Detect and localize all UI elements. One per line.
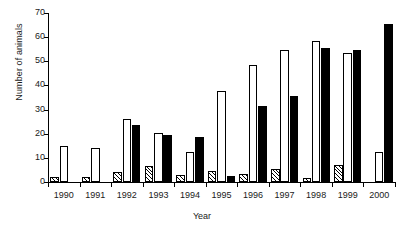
x-tick-mark bbox=[332, 182, 333, 187]
x-tick-mark bbox=[269, 182, 270, 187]
x-tick-mark bbox=[395, 182, 396, 187]
bar-white-1996 bbox=[249, 65, 258, 182]
x-tick-mark bbox=[206, 182, 207, 187]
x-tick-label: 1992 bbox=[117, 190, 137, 200]
bar-black-1993 bbox=[163, 135, 172, 182]
bar-black-1998 bbox=[321, 48, 330, 182]
x-tick-label: 1996 bbox=[243, 190, 263, 200]
bar-hatched-1990 bbox=[50, 177, 59, 182]
y-tick-label: 10 bbox=[35, 152, 45, 162]
bar-hatched-1995 bbox=[208, 171, 217, 182]
y-tick-label: 40 bbox=[35, 79, 45, 89]
plot-area: 010203040506070 199019911992199319941995… bbox=[48, 13, 395, 182]
x-tick-mark bbox=[237, 182, 238, 187]
y-axis-title: Number of animals bbox=[14, 0, 24, 127]
y-tick-label: 60 bbox=[35, 31, 45, 41]
x-axis-line bbox=[48, 182, 395, 183]
x-tick-label: 1993 bbox=[148, 190, 168, 200]
x-tick-label: 1991 bbox=[85, 190, 105, 200]
bar-hatched-1993 bbox=[145, 166, 154, 182]
bar-white-1992 bbox=[123, 119, 132, 182]
x-tick-label: 1995 bbox=[211, 190, 231, 200]
y-tick-label: 30 bbox=[35, 104, 45, 114]
bar-black-1996 bbox=[258, 106, 267, 182]
x-tick-label: 1999 bbox=[338, 190, 358, 200]
y-tick-label: 0 bbox=[40, 176, 45, 186]
x-tick-mark bbox=[80, 182, 81, 187]
y-tick-label: 20 bbox=[35, 128, 45, 138]
bar-white-1997 bbox=[280, 50, 289, 182]
bar-white-1990 bbox=[60, 146, 69, 182]
bar-hatched-1994 bbox=[176, 175, 185, 182]
y-tick: 60 bbox=[48, 37, 53, 38]
x-tick-label: 1990 bbox=[54, 190, 74, 200]
bar-black-1994 bbox=[195, 137, 204, 182]
x-tick-mark bbox=[300, 182, 301, 187]
y-tick: 20 bbox=[48, 134, 53, 135]
bar-hatched-1999 bbox=[334, 165, 343, 182]
y-tick: 50 bbox=[48, 61, 53, 62]
bar-hatched-1991 bbox=[82, 177, 91, 182]
x-tick-mark bbox=[174, 182, 175, 187]
x-tick-mark bbox=[48, 182, 49, 187]
bar-white-1994 bbox=[186, 152, 195, 182]
y-tick: 10 bbox=[48, 158, 53, 159]
x-tick-label: 2000 bbox=[369, 190, 389, 200]
bar-white-1995 bbox=[217, 91, 226, 182]
bar-chart: Number of animals 010203040506070 199019… bbox=[0, 0, 404, 229]
bar-black-1992 bbox=[132, 125, 141, 182]
y-tick: 70 bbox=[48, 13, 53, 14]
x-tick-mark bbox=[363, 182, 364, 187]
bar-white-1993 bbox=[154, 133, 163, 182]
bar-hatched-1996 bbox=[239, 174, 248, 182]
bar-white-2000 bbox=[375, 152, 384, 182]
x-tick-mark bbox=[111, 182, 112, 187]
y-tick: 40 bbox=[48, 85, 53, 86]
bar-hatched-1998 bbox=[303, 178, 312, 182]
bar-hatched-1992 bbox=[113, 172, 122, 182]
bar-white-1991 bbox=[91, 148, 100, 182]
y-axis-line bbox=[48, 13, 49, 182]
x-tick-mark bbox=[143, 182, 144, 187]
x-axis-title: Year bbox=[0, 211, 404, 221]
bar-black-1995 bbox=[227, 176, 236, 182]
bar-hatched-1997 bbox=[271, 169, 280, 182]
bar-white-1998 bbox=[312, 41, 321, 182]
x-tick-label: 1994 bbox=[180, 190, 200, 200]
bar-white-1999 bbox=[343, 53, 352, 182]
bar-black-1999 bbox=[353, 50, 362, 182]
y-tick-label: 70 bbox=[35, 7, 45, 17]
y-tick-label: 50 bbox=[35, 55, 45, 65]
x-tick-label: 1998 bbox=[306, 190, 326, 200]
bar-black-2000 bbox=[384, 24, 393, 182]
bar-black-1997 bbox=[290, 96, 299, 182]
x-tick-label: 1997 bbox=[275, 190, 295, 200]
y-tick: 30 bbox=[48, 110, 53, 111]
